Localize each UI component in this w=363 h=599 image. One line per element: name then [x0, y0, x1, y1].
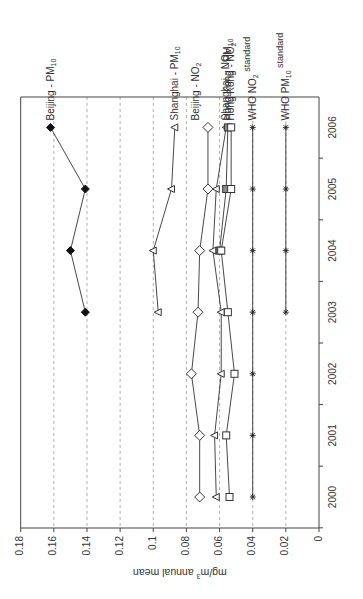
asterisk-marker: [250, 371, 256, 377]
value-tick-label: 0.1: [147, 536, 158, 550]
asterisk-marker: [283, 186, 289, 192]
series-label: Hong Kong - NO2: [225, 42, 238, 120]
square-marker: [224, 309, 231, 316]
diamond-marker: [195, 246, 205, 256]
year-tick-label: 2001: [327, 424, 338, 447]
value-tick-label: 0: [313, 536, 324, 542]
asterisk-marker: [250, 309, 256, 315]
series-line: [51, 127, 86, 312]
series-labels: Beijing - PM10Shanghai - PM10Beijing - N…: [44, 33, 292, 121]
asterisk-marker: [250, 494, 256, 500]
square-marker: [231, 370, 238, 377]
year-tick-label: 2006: [327, 116, 338, 139]
value-tick-label: 0.06: [213, 536, 224, 556]
asterisk-marker: [283, 248, 289, 254]
value-axis-title-text: mg/m3 annual mean: [133, 567, 227, 579]
value-tick-label: 0.02: [279, 536, 290, 556]
series-label: Beijing - NO2: [190, 62, 203, 120]
series-label: Beijing - PM10: [44, 59, 57, 121]
square-marker: [218, 247, 225, 254]
triangle-marker: [209, 247, 216, 254]
year-tick-label: 2000: [327, 485, 338, 508]
triangle-marker: [211, 432, 218, 439]
square-marker: [226, 494, 233, 501]
diamond-marker: [81, 185, 89, 193]
year-tick-label: 2002: [327, 362, 338, 385]
diamond-marker: [195, 430, 205, 440]
rotated-line-chart: 00.020.040.060.080.10.120.140.160.182000…: [0, 0, 363, 599]
plot-frame: [21, 97, 319, 528]
diamond-marker: [81, 308, 89, 316]
asterisk-marker: [250, 186, 256, 192]
diamond-marker: [193, 307, 203, 317]
square-marker: [228, 124, 235, 131]
triangle-marker: [149, 247, 156, 254]
year-tick-label: 2005: [327, 177, 338, 200]
asterisk-marker: [250, 248, 256, 254]
year-tick-label: 2004: [327, 239, 338, 262]
year-tick-label: 2003: [327, 301, 338, 324]
value-tick-label: 0.14: [81, 536, 92, 556]
asterisk-marker: [283, 309, 289, 315]
value-axis-title: mg/m3 annual mean: [133, 567, 227, 579]
asterisk-marker: [283, 124, 289, 130]
diamond-marker: [66, 247, 74, 255]
value-tick-label: 0.16: [47, 536, 58, 556]
diamond-marker: [186, 369, 196, 379]
square-marker: [223, 432, 230, 439]
value-tick-label: 0.18: [14, 536, 25, 556]
diamond-marker: [203, 122, 213, 132]
value-tick-label: 0.04: [246, 536, 257, 556]
series-label: WHO PM10 standard: [275, 33, 292, 121]
axis-ticks: 00.020.040.060.080.10.120.140.160.182000…: [14, 116, 337, 556]
series-label: Shanghai - PM10: [168, 46, 181, 120]
series-line: [153, 127, 175, 312]
value-tick-label: 0.12: [114, 536, 125, 556]
diamond-marker: [195, 492, 205, 502]
diamond-marker: [47, 123, 55, 131]
square-marker: [228, 186, 235, 193]
series-label: WHO NO2 standard: [242, 37, 259, 121]
asterisk-marker: [250, 432, 256, 438]
asterisk-marker: [250, 124, 256, 130]
value-tick-label: 0.08: [180, 536, 191, 556]
